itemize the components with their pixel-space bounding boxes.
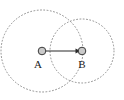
overlapping-circles-diagram: A B <box>0 0 124 100</box>
point-a-dot <box>38 47 46 55</box>
point-b-dot <box>78 47 86 55</box>
point-b-label: B <box>78 58 85 70</box>
point-a-label: A <box>34 58 42 70</box>
diagram-canvas: A B <box>0 0 124 100</box>
